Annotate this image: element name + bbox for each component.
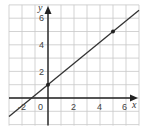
origin-label: 0	[38, 102, 43, 112]
data-point	[111, 30, 115, 34]
y-axis-arrow-icon	[45, 6, 52, 14]
x-tick-label: 4	[97, 102, 102, 112]
x-axis-label: x	[131, 99, 137, 110]
y-tick-label: 4	[39, 40, 44, 50]
x-tick-label: -2	[18, 102, 26, 112]
y-axis-label: y	[37, 2, 43, 13]
x-tick-label: 6	[122, 102, 127, 112]
data-point	[46, 83, 50, 87]
y-tick-label: 6	[39, 13, 44, 23]
x-tick-label: 2	[71, 102, 76, 112]
y-tick-label: 2	[39, 67, 44, 77]
coordinate-graph: x y -2 0 2 4 6 2 4 6	[0, 0, 143, 134]
